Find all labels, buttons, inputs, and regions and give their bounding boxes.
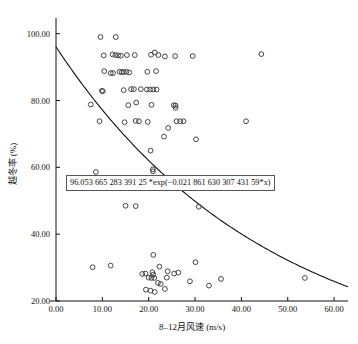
data-point <box>132 53 137 58</box>
exponential-fit-curve <box>56 47 348 287</box>
data-point <box>219 277 224 282</box>
data-point <box>97 119 102 124</box>
scatter-plot-figure: 0.0010.0020.0030.0040.0050.0060.0020.004… <box>0 0 358 344</box>
data-point <box>244 119 249 124</box>
data-point <box>154 87 159 92</box>
y-tick-label: 100.00 <box>27 29 50 39</box>
y-tick-label: 20.00 <box>31 296 50 306</box>
data-point <box>137 119 142 124</box>
data-point <box>151 252 156 257</box>
data-point <box>196 204 201 209</box>
data-point <box>162 134 167 139</box>
y-tick-label: 40.00 <box>31 229 50 239</box>
data-point <box>154 69 159 74</box>
data-points-group <box>88 35 307 295</box>
data-point <box>181 119 186 124</box>
data-point <box>165 269 170 274</box>
data-point <box>149 102 154 107</box>
x-tick-label: 10.00 <box>93 304 112 314</box>
x-tick-label: 60.00 <box>325 304 344 314</box>
data-point <box>133 204 138 209</box>
data-point <box>123 203 128 208</box>
data-point <box>190 54 195 59</box>
fit-curve-group <box>56 47 348 287</box>
data-point <box>173 54 178 59</box>
data-point <box>193 260 198 265</box>
data-point <box>145 120 150 125</box>
y-tick-label: 80.00 <box>31 96 50 106</box>
data-point <box>113 35 118 40</box>
x-tick-label: 40.00 <box>232 304 251 314</box>
data-point <box>126 103 131 108</box>
y-tick-label: 60.00 <box>31 162 50 172</box>
data-point <box>102 69 107 74</box>
data-point <box>164 275 169 280</box>
data-point <box>127 70 132 75</box>
data-point <box>144 287 149 292</box>
data-point <box>125 53 130 58</box>
x-tick-label: 50.00 <box>278 304 297 314</box>
data-point <box>122 120 127 125</box>
data-point <box>138 87 143 92</box>
data-point <box>166 126 171 131</box>
data-point <box>259 52 264 57</box>
data-point <box>207 283 212 288</box>
data-point <box>157 264 162 269</box>
data-point <box>163 54 168 59</box>
axes-group <box>50 18 348 301</box>
data-point <box>145 69 150 74</box>
data-point <box>88 102 93 107</box>
data-point <box>121 88 126 93</box>
data-point <box>158 282 163 287</box>
data-point <box>134 100 139 105</box>
equation-annotation-box: 96.053 665 283 391 25 *exp(−0.021 861 63… <box>66 175 275 191</box>
data-point <box>90 265 95 270</box>
data-point <box>156 281 161 286</box>
equation-text: 96.053 665 283 391 25 *exp(−0.021 861 63… <box>70 178 271 187</box>
data-point <box>101 53 106 58</box>
data-point <box>93 170 98 175</box>
data-point <box>98 35 103 40</box>
x-tick-label: 0.00 <box>49 304 64 314</box>
data-point <box>108 263 113 268</box>
plot-canvas: 0.0010.0020.0030.0040.0050.0060.0020.004… <box>0 0 358 344</box>
data-point <box>303 276 308 281</box>
data-point <box>194 137 199 142</box>
data-point <box>188 279 193 284</box>
x-axis-title: 8–12月风速 (m/s) <box>159 322 225 332</box>
x-tick-label: 20.00 <box>139 304 158 314</box>
data-point <box>156 53 161 58</box>
x-tick-label: 30.00 <box>185 304 204 314</box>
y-axis-title: 越冬率 (%) <box>7 143 18 186</box>
data-point <box>148 148 153 153</box>
data-point <box>163 287 168 292</box>
